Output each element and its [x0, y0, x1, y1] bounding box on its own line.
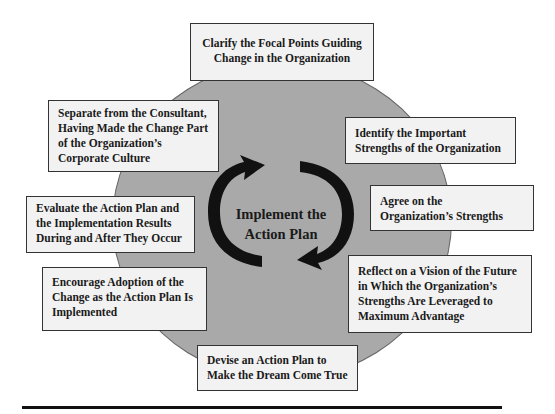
step-text-line: Encourage Adoption of the	[52, 275, 197, 290]
step-devise-action-plan: Devise an Action Plan to Make the Dream …	[197, 345, 358, 391]
step-text-line: Having Made the Change Part	[58, 121, 209, 136]
step-text-line: Reflect on a Vision of the Future	[358, 264, 522, 279]
step-text-line: in Which the Organization’s	[358, 279, 522, 294]
step-text-line: Corporate Culture	[58, 151, 209, 166]
step-text-line: the Implementation Results	[36, 216, 185, 231]
step-text-line: Organization’s Strengths	[380, 209, 524, 224]
step-text-line: Evaluate the Action Plan and	[36, 201, 185, 216]
step-text-line: Clarify the Focal Points Guiding	[200, 36, 364, 51]
step-separate-from-consultant: Separate from the Consultant, Having Mad…	[48, 100, 219, 172]
step-text-line: Separate from the Consultant,	[58, 106, 209, 121]
step-encourage-adoption: Encourage Adoption of the Change as the …	[42, 267, 207, 331]
bottom-divider	[22, 406, 502, 409]
step-text-line: Strengths Are Leveraged to	[358, 294, 522, 309]
step-identify-strengths: Identify the Important Strengths of the …	[345, 117, 516, 164]
center-label: Implement the Action Plan	[222, 204, 340, 244]
step-text-line: Maximum Advantage	[358, 309, 522, 324]
step-text-line: During and After They Occur	[36, 231, 185, 246]
cycle-diagram: Implement the Action Plan Clarify the Fo…	[0, 0, 555, 414]
step-evaluate-action-plan: Evaluate the Action Plan and the Impleme…	[26, 196, 195, 253]
step-agree-strengths: Agree on the Organization’s Strengths	[370, 185, 534, 231]
step-text-line: Change in the Organization	[200, 51, 364, 66]
step-text-line: Agree on the	[380, 194, 524, 209]
step-text-line: Make the Dream Come True	[207, 368, 348, 383]
step-reflect-vision: Reflect on a Vision of the Future in Whi…	[348, 255, 532, 333]
center-label-line1: Implement the	[222, 204, 340, 224]
step-clarify-focal-points: Clarify the Focal Points Guiding Change …	[190, 23, 374, 81]
step-text-line: Identify the Important	[355, 126, 506, 141]
center-label-line2: Action Plan	[222, 224, 340, 244]
step-text-line: Strengths of the Organization	[355, 141, 506, 156]
step-text-line: Implemented	[52, 305, 197, 320]
step-text-line: Change as the Action Plan Is	[52, 290, 197, 305]
step-text-line: of the Organization’s	[58, 136, 209, 151]
step-text-line: Devise an Action Plan to	[207, 353, 348, 368]
